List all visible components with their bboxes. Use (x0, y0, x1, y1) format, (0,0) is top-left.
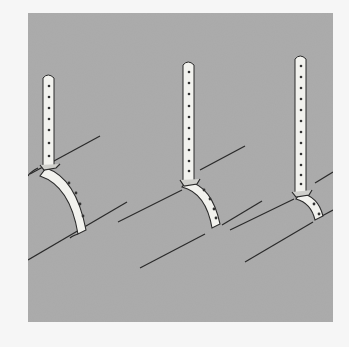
paper-texture (28, 13, 333, 322)
pipe-hanger-illustration (0, 0, 349, 347)
